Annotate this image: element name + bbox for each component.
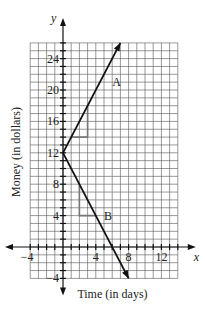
y-tick-label: 4: [53, 209, 59, 223]
arrowhead-b-icon: [122, 270, 129, 279]
x-axis-arrow-left-icon: [5, 244, 13, 250]
y-tick-label: 20: [47, 83, 59, 97]
y-tick-label: 12: [47, 146, 59, 160]
arrowhead-a-icon: [114, 43, 121, 52]
y-tick-label: 16: [47, 114, 59, 128]
x-tick-label: −4: [21, 250, 34, 264]
y-axis-name: y: [50, 11, 57, 25]
x-axis-label: Time (in days): [0, 287, 205, 302]
y-tick-label: 24: [47, 52, 59, 66]
x-tick-label: 8: [126, 250, 132, 264]
x-tick-label: 4: [93, 250, 99, 264]
series-label-b: B: [104, 209, 112, 223]
y-tick-label: 8: [53, 177, 59, 191]
x-tick-label: 12: [155, 250, 167, 264]
x-axis-name: x: [193, 250, 200, 264]
y-axis-label: Money (in dollars): [9, 107, 24, 197]
chart: −44812−44812162024xyAB: [0, 0, 205, 318]
y-tick-label: −4: [46, 271, 59, 285]
y-axis-arrow-up-icon: [60, 18, 66, 26]
series-label-a: A: [112, 75, 121, 89]
